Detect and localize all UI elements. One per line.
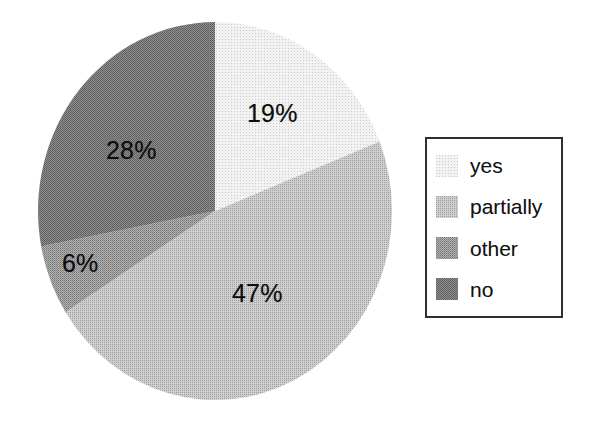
legend-label-partially: partially [470,196,542,217]
slice-value-label-other: 6% [62,249,99,278]
legend-label-other: other [470,238,518,259]
legend-swatch-other [436,237,458,259]
slice-value-label-no: 28% [106,136,157,165]
pie-plot-area: 19% 47% 6% 28% [0,0,420,426]
pie-slice-no [38,22,215,246]
legend-item-partially: partially [436,188,561,226]
legend-swatch-partially [436,196,458,218]
legend-label-no: no [470,279,493,300]
legend-swatch-yes [436,155,458,177]
pie-chart-figure: 19% 47% 6% 28% yes partially [0,0,591,426]
legend-item-other: other [436,229,561,267]
legend-item-yes: yes [436,147,561,185]
legend-item-list: yes partially other no [427,139,561,316]
slice-value-label-partially: 47% [232,279,283,308]
legend-label-yes: yes [470,155,503,176]
pie-slice-group [38,22,392,400]
slice-value-label-yes: 19% [247,99,298,128]
pie-svg [0,0,420,426]
legend-item-no: no [436,270,561,308]
legend-swatch-no [436,278,458,300]
chart-legend: yes partially other no [425,137,563,318]
